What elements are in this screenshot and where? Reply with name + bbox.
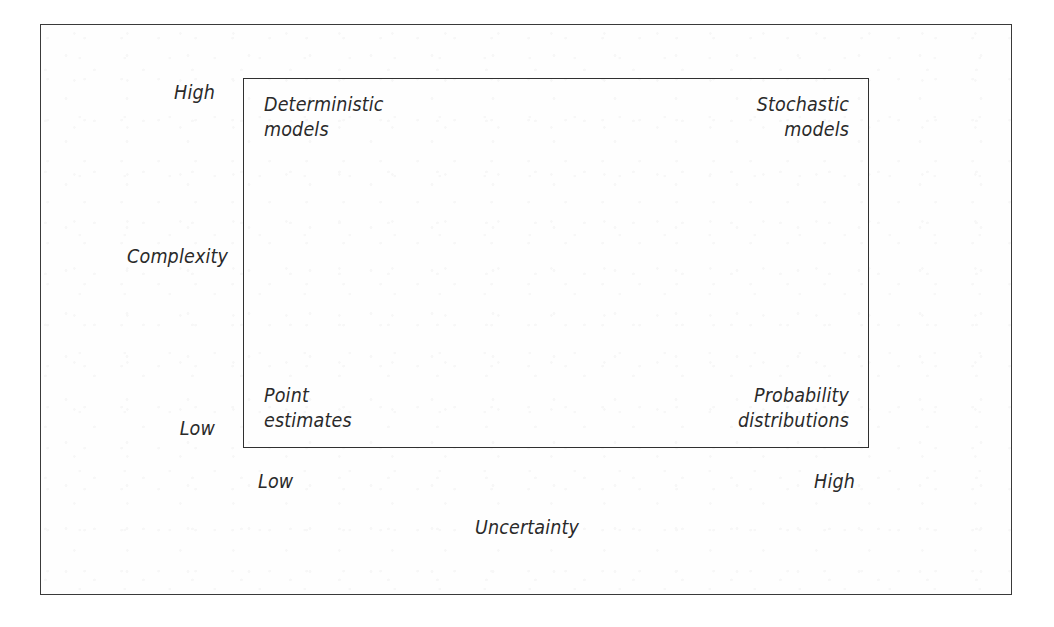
y-axis-tick-low: Low: [180, 417, 215, 441]
x-axis-tick-high: High: [814, 470, 855, 494]
plot-area-box: Deterministic models Stochastic models P…: [243, 78, 869, 448]
quadrant-diagram-figure: High Complexity Low Deterministic models…: [0, 0, 1054, 627]
x-axis-tick-low: Low: [258, 470, 293, 494]
quadrant-label-bottom-right: Probability distributions: [738, 383, 849, 433]
quadrant-label-bottom-left: Point estimates: [264, 383, 352, 433]
quadrant-label-top-left: Deterministic models: [264, 92, 384, 142]
y-axis-title: Complexity: [127, 245, 228, 269]
quadrant-label-top-right: Stochastic models: [757, 92, 849, 142]
y-axis-tick-high: High: [174, 81, 215, 105]
x-axis-title: Uncertainty: [0, 516, 1054, 540]
